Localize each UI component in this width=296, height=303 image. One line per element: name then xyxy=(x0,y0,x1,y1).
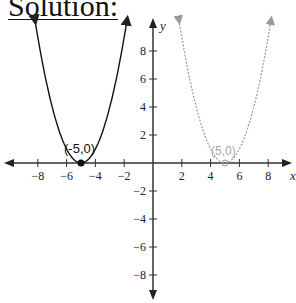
svg-text:−8: −8 xyxy=(133,268,146,282)
svg-text:−4: −4 xyxy=(133,212,146,226)
svg-text:8: 8 xyxy=(265,169,271,183)
vertex-label-left: (-5,0) xyxy=(64,141,95,156)
svg-text:6: 6 xyxy=(236,169,242,183)
svg-text:8: 8 xyxy=(140,44,146,58)
vertex-label-right: (5,0) xyxy=(211,144,236,158)
y-axis-label: y xyxy=(158,18,166,33)
svg-text:−2: −2 xyxy=(118,169,131,183)
x-axis xyxy=(4,159,292,167)
svg-text:−8: −8 xyxy=(31,169,44,183)
svg-text:4: 4 xyxy=(208,169,214,183)
coordinate-plane: −8−6−4−224688642−2−4−6−8 y x (-5,0) (5,0… xyxy=(0,0,296,303)
svg-text:−6: −6 xyxy=(133,240,146,254)
vertex-point-left xyxy=(78,160,85,167)
svg-text:−2: −2 xyxy=(133,184,146,198)
y-axis xyxy=(149,18,157,300)
parabola-right xyxy=(179,20,271,163)
svg-text:6: 6 xyxy=(140,72,146,86)
svg-text:−4: −4 xyxy=(89,169,102,183)
svg-text:4: 4 xyxy=(140,100,146,114)
svg-text:2: 2 xyxy=(140,128,146,142)
svg-text:−6: −6 xyxy=(60,169,73,183)
svg-text:2: 2 xyxy=(179,169,185,183)
x-axis-label: x xyxy=(289,168,296,183)
